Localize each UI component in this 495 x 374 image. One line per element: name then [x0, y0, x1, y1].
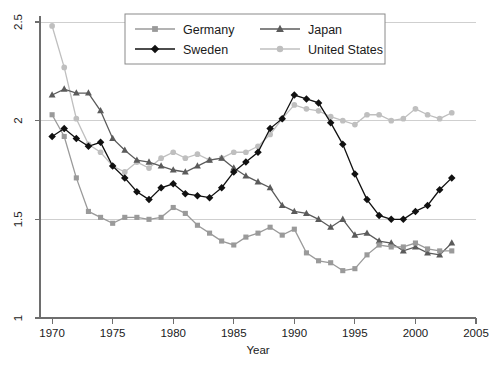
data-point-triangle	[109, 135, 116, 141]
data-point-circle	[364, 112, 370, 118]
axes: 11.522.519701975198019851990199520002005…	[12, 14, 489, 356]
marker-square	[437, 248, 442, 253]
data-point-diamond	[400, 216, 408, 224]
marker-square	[280, 233, 285, 238]
data-point-circle	[146, 165, 152, 171]
marker-square	[207, 231, 212, 236]
data-point-circle	[316, 108, 322, 114]
data-point-square	[62, 134, 67, 139]
marker-square	[146, 217, 151, 222]
data-point-square	[389, 244, 394, 249]
data-point-square	[159, 215, 164, 220]
marker-triangle	[327, 223, 334, 229]
legend-label: Germany	[183, 23, 235, 37]
x-tick-label: 1975	[100, 327, 126, 339]
marker-square	[401, 244, 406, 249]
data-point-diamond	[194, 192, 202, 200]
data-point-square	[449, 248, 454, 253]
marker-square	[352, 266, 357, 271]
data-point-circle	[231, 149, 237, 155]
marker-square	[134, 215, 139, 220]
marker-circle	[413, 106, 419, 112]
x-tick-label: 2000	[403, 327, 429, 339]
series-line	[52, 95, 452, 219]
x-axis-title: Year	[246, 344, 269, 356]
data-point-square	[122, 215, 127, 220]
marker-square	[413, 240, 418, 245]
marker-circle	[291, 102, 297, 108]
data-point-square	[328, 260, 333, 265]
marker-circle	[73, 116, 79, 122]
marker-circle	[49, 23, 55, 29]
marker-square	[231, 242, 236, 247]
marker-circle	[352, 122, 358, 128]
data-point-square	[152, 26, 158, 32]
data-point-square	[292, 227, 297, 232]
marker-circle	[61, 65, 67, 71]
data-point-circle	[449, 110, 455, 116]
data-point-diamond	[387, 216, 395, 224]
marker-circle	[437, 116, 443, 122]
data-point-circle	[352, 122, 358, 128]
marker-diamond	[315, 99, 323, 107]
data-point-triangle	[339, 216, 346, 222]
marker-square	[364, 252, 369, 257]
marker-diamond	[351, 170, 359, 178]
marker-circle	[449, 110, 455, 116]
marker-circle	[243, 149, 249, 155]
marker-diamond	[327, 119, 335, 127]
x-tick-label: 1985	[221, 327, 247, 339]
marker-square	[219, 238, 224, 243]
marker-square	[122, 215, 127, 220]
data-point-square	[86, 209, 91, 214]
marker-square	[243, 235, 248, 240]
series-sweden	[48, 91, 455, 223]
data-point-square	[207, 231, 212, 236]
marker-square	[195, 223, 200, 228]
data-point-square	[304, 250, 309, 255]
marker-square	[50, 112, 55, 117]
data-point-circle	[61, 65, 67, 71]
data-point-square	[183, 211, 188, 216]
data-point-circle	[170, 149, 176, 155]
series-line	[52, 89, 452, 255]
x-tick-label: 1990	[282, 327, 308, 339]
data-point-square	[255, 231, 260, 236]
marker-circle	[388, 118, 394, 124]
data-point-circle	[400, 116, 406, 122]
marker-square	[268, 225, 273, 230]
x-tick-label: 1980	[160, 327, 186, 339]
marker-triangle	[109, 135, 116, 141]
marker-circle	[146, 165, 152, 171]
marker-circle	[195, 151, 201, 157]
marker-circle	[170, 149, 176, 155]
data-point-circle	[122, 169, 128, 175]
marker-circle	[425, 112, 431, 118]
data-point-circle	[388, 118, 394, 124]
legend-label: United States	[308, 43, 383, 57]
data-point-circle	[158, 155, 164, 161]
x-tick-label: 1995	[342, 327, 368, 339]
data-point-circle	[413, 106, 419, 112]
data-point-square	[425, 246, 430, 251]
marker-circle	[98, 149, 104, 155]
y-tick-label: 2	[12, 117, 24, 123]
data-point-diamond	[291, 91, 299, 99]
line-chart: 11.522.519701975198019851990199520002005…	[0, 0, 495, 374]
marker-triangle	[242, 172, 249, 178]
marker-circle	[231, 149, 237, 155]
data-point-triangle	[448, 239, 455, 245]
series-japan	[49, 85, 456, 257]
marker-square	[377, 242, 382, 247]
data-point-triangle	[364, 229, 371, 235]
marker-square	[340, 268, 345, 273]
data-point-circle	[98, 149, 104, 155]
marker-square	[98, 215, 103, 220]
data-point-square	[413, 240, 418, 245]
data-point-square	[74, 175, 79, 180]
data-point-square	[364, 252, 369, 257]
data-point-circle	[195, 151, 201, 157]
data-point-square	[352, 266, 357, 271]
legend-box	[125, 14, 385, 64]
data-point-diamond	[339, 141, 347, 149]
